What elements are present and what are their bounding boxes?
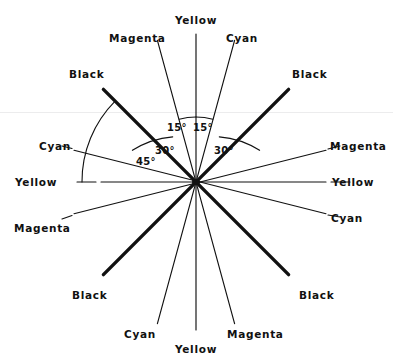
leader-magenta-left <box>62 216 72 220</box>
angle-label-15-right: 15° <box>193 122 213 133</box>
angle-label-15-left: 15° <box>167 122 187 133</box>
screen-angle-diagram: Yellow Magenta Cyan Black Black Cyan Mag… <box>0 0 393 363</box>
label-magenta-bottom: Magenta <box>227 328 284 340</box>
arc-15-right <box>196 117 213 119</box>
label-black-top-right: Black <box>292 68 328 80</box>
label-yellow-right: Yellow <box>331 176 374 188</box>
diagram-canvas: Yellow Magenta Cyan Black Black Cyan Mag… <box>0 0 393 363</box>
label-cyan-right: Cyan <box>331 212 363 224</box>
label-magenta-top-left: Magenta <box>109 32 166 44</box>
angle-label-30-left: 30° <box>155 145 175 156</box>
angle-label-45: 45° <box>136 156 156 167</box>
label-yellow-left: Yellow <box>14 176 57 188</box>
label-magenta-left: Magenta <box>14 222 71 234</box>
label-yellow-bottom: Yellow <box>174 343 217 355</box>
angle-label-30-right: 30° <box>214 145 234 156</box>
label-magenta-right: Magenta <box>330 140 387 152</box>
label-cyan-bottom: Cyan <box>124 328 156 340</box>
label-black-top-left: Black <box>69 68 105 80</box>
center-hub <box>192 179 200 185</box>
label-black-bottom-right: Black <box>299 289 335 301</box>
label-black-bottom-left: Black <box>72 289 108 301</box>
label-cyan-top-right: Cyan <box>226 32 258 44</box>
arc-45 <box>82 101 115 182</box>
arc-15-left <box>179 117 196 119</box>
label-cyan-left: Cyan <box>39 140 71 152</box>
label-yellow-top: Yellow <box>174 14 217 26</box>
